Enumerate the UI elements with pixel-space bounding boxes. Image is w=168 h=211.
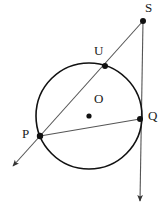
point-label-s: S xyxy=(145,1,152,14)
geometry-canvas xyxy=(0,0,168,211)
point-label-p: P xyxy=(22,127,29,140)
point-label-q: Q xyxy=(148,109,157,122)
geometry-figure: S U P Q O xyxy=(0,0,168,211)
segments-group xyxy=(13,21,143,201)
point-label-u: U xyxy=(94,44,103,57)
point-dot-u xyxy=(102,63,108,69)
point-label-o: O xyxy=(94,92,103,105)
point-dot-o xyxy=(86,113,91,118)
point-dot-p xyxy=(37,133,43,139)
chord-p-q xyxy=(40,119,140,136)
point-dot-s xyxy=(140,18,146,24)
point-dot-q xyxy=(137,116,143,122)
